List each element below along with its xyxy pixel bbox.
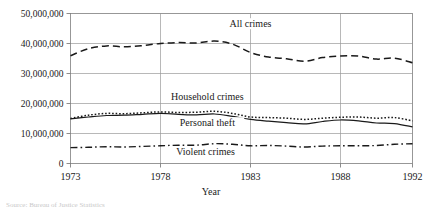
x-axis-ticks: 19731978198319881992 — [61, 164, 423, 182]
x-tick-label: 1973 — [61, 171, 81, 182]
y-axis-ticks: 010,000,00020,000,00030,000,00040,000,00… — [21, 9, 71, 169]
y-tick-label: 20,000,000 — [21, 99, 64, 109]
x-tick-label: 1978 — [151, 171, 171, 182]
chart-footnote: Source: Bureau of Justice Statistics — [6, 201, 105, 209]
series-line-all-crimes — [71, 41, 413, 63]
y-tick-label: 10,000,000 — [21, 129, 64, 139]
series-inline-labels: All crimesHousehold crimesPersonal theft… — [166, 18, 278, 157]
plot-frame — [71, 14, 413, 164]
y-tick-label: 0 — [59, 159, 64, 169]
series-label-personal-theft: Personal theft — [180, 117, 235, 128]
x-tick-label: 1988 — [331, 171, 351, 182]
chart-canvas: 010,000,00020,000,00030,000,00040,000,00… — [0, 0, 430, 209]
series-label-all-crimes: All crimes — [230, 18, 272, 29]
y-tick-label: 40,000,000 — [21, 39, 64, 49]
series-label-violent-crimes: Violent crimes — [176, 146, 235, 157]
grid-lines — [71, 14, 413, 164]
y-tick-label: 30,000,000 — [21, 69, 64, 79]
x-tick-label: 1992 — [403, 171, 423, 182]
y-tick-label: 50,000,000 — [21, 9, 64, 19]
series-label-household-crimes: Household crimes — [171, 91, 244, 102]
crime-trends-chart: 010,000,00020,000,00030,000,00040,000,00… — [0, 0, 430, 209]
x-axis-title: Year — [202, 186, 221, 197]
x-tick-label: 1983 — [241, 171, 261, 182]
